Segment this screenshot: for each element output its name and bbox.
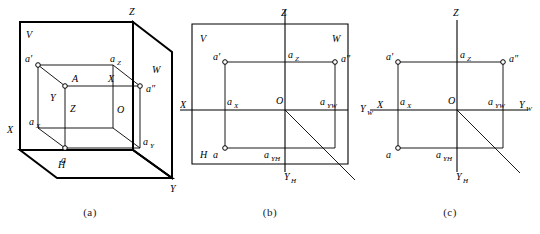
label-ayw-sub: YW xyxy=(495,102,506,110)
node-a xyxy=(223,146,228,151)
node-a-double-prime xyxy=(501,60,506,65)
label-ayw: a xyxy=(488,96,493,107)
label-a-double-prime: a″ xyxy=(341,53,351,64)
label-ayh-sub: YH xyxy=(271,155,281,163)
label-ax-sub: X xyxy=(233,102,239,110)
label-inner-y: Y xyxy=(50,92,57,103)
node-A xyxy=(63,84,68,89)
label-ax: a xyxy=(400,96,405,107)
node-a-double-prime xyxy=(333,60,338,65)
label-plane-v: V xyxy=(26,29,34,40)
h-plane-outline xyxy=(20,150,172,178)
panel-c: Y W X Z Y W Y H O a' a″ a a X a Z a YW a… xyxy=(360,0,540,234)
label-a-double-prime: a″ xyxy=(509,53,519,64)
label-inner-z: Z xyxy=(70,103,76,114)
label-axis-yh: Y xyxy=(456,171,463,182)
label-plane-h: H xyxy=(199,149,208,160)
connector-ax-ah xyxy=(38,128,65,148)
label-a: a xyxy=(386,149,391,160)
label-origin: O xyxy=(276,95,283,106)
panel-b: V W H X Z Y H O a' a″ a a X a Z a YW a Y… xyxy=(180,0,360,234)
label-inner-x: X xyxy=(107,73,115,84)
panel-a-drawing: V W H X Y Z A X Y Z O a' a″ a a X a Z a … xyxy=(0,0,180,200)
label-ay: a xyxy=(143,136,148,147)
label-origin: O xyxy=(448,95,455,106)
panel-c-drawing: Y W X Z Y W Y H O a' a″ a a X a Z a YW a… xyxy=(360,0,540,200)
label-origin: O xyxy=(117,104,124,115)
label-axis-x: X xyxy=(180,99,187,110)
label-axis-yh-sub: H xyxy=(290,177,297,185)
axis-y-line xyxy=(133,150,172,178)
label-axis-yh-sub: H xyxy=(462,177,469,185)
label-axis-yw-left: Y xyxy=(360,103,367,114)
label-a-double-prime: a″ xyxy=(146,83,156,94)
label-ayw: a xyxy=(320,96,325,107)
figure-root: V W H X Y Z A X Y Z O a' a″ a a X a Z a … xyxy=(0,0,540,234)
label-ayh: a xyxy=(436,149,441,160)
node-a xyxy=(63,146,68,151)
node-a-prime xyxy=(223,60,228,65)
label-az: a xyxy=(460,49,465,60)
label-axis-x: X xyxy=(376,99,384,110)
label-axis-x: X xyxy=(6,124,14,135)
frame-outline xyxy=(192,24,348,164)
caption-a: (a) xyxy=(0,206,180,218)
node-a-prime xyxy=(396,60,401,65)
label-az-sub: Z xyxy=(295,55,299,63)
label-a: a xyxy=(61,154,66,165)
bisector-line xyxy=(285,110,355,180)
label-axis-z: Z xyxy=(281,7,287,18)
label-az-sub: Z xyxy=(117,59,121,67)
panel-a: V W H X Y Z A X Y Z O a' a″ a a X a Z a … xyxy=(0,0,180,234)
label-axis-z: Z xyxy=(129,6,135,17)
label-a-prime: a' xyxy=(213,51,221,62)
label-a: a xyxy=(213,149,218,160)
connector-o-ay xyxy=(113,128,140,148)
label-point-A: A xyxy=(71,73,79,84)
connector-az-aw xyxy=(113,65,140,86)
label-plane-w: W xyxy=(152,64,162,75)
bisector-line xyxy=(457,110,520,173)
label-az: a xyxy=(288,49,293,60)
label-plane-v: V xyxy=(200,33,208,44)
label-axis-yw-right-sub: W xyxy=(526,105,533,113)
label-ax: a xyxy=(227,96,232,107)
label-ayw-sub: YW xyxy=(327,102,338,110)
node-a xyxy=(396,146,401,151)
label-a-prime: a' xyxy=(25,53,33,64)
label-plane-w: W xyxy=(332,33,342,44)
label-ax-sub: X xyxy=(406,102,412,110)
node-a-prime xyxy=(36,63,41,68)
label-axis-z: Z xyxy=(453,7,459,18)
label-ay-sub: Y xyxy=(150,142,155,150)
label-az-sub: Z xyxy=(467,55,471,63)
panel-b-drawing: V W H X Z Y H O a' a″ a a X a Z a YW a Y… xyxy=(180,0,360,200)
label-az: a xyxy=(110,53,115,64)
label-axis-yh: Y xyxy=(284,171,291,182)
caption-b: (b) xyxy=(180,206,360,218)
label-ax: a xyxy=(29,116,34,127)
node-a-double-prime xyxy=(138,84,143,89)
label-axis-yw-right: Y xyxy=(519,99,526,110)
label-ayh-sub: YH xyxy=(443,155,453,163)
label-a-prime: a' xyxy=(386,51,394,62)
label-ayh: a xyxy=(264,149,269,160)
connector-av-A xyxy=(38,65,65,86)
caption-c: (c) xyxy=(360,206,540,218)
label-axis-y: Y xyxy=(170,183,177,194)
label-ax-sub: X xyxy=(35,122,41,130)
